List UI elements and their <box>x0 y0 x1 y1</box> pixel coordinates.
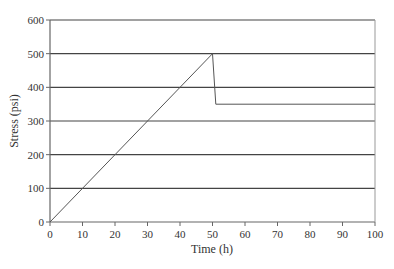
x-tick-label: 10 <box>77 228 89 240</box>
x-tick-label: 80 <box>305 228 317 240</box>
x-tick-label: 20 <box>110 228 122 240</box>
data-series <box>50 54 375 222</box>
x-axis-ticks: 0102030405060708090100 <box>47 222 384 240</box>
stress-line <box>50 54 375 222</box>
y-tick-label: 500 <box>28 48 45 60</box>
y-axis-label: Stress (psi) <box>7 94 21 148</box>
y-tick-label: 400 <box>28 81 45 93</box>
y-tick-label: 600 <box>28 14 45 26</box>
x-tick-label: 60 <box>240 228 252 240</box>
y-tick-label: 100 <box>28 182 45 194</box>
y-tick-label: 0 <box>39 216 45 228</box>
x-tick-label: 100 <box>367 228 384 240</box>
x-tick-label: 30 <box>142 228 154 240</box>
y-axis-ticks: 0100200300400500600 <box>28 14 51 228</box>
y-tick-label: 300 <box>28 115 45 127</box>
x-axis-label: Time (h) <box>191 242 233 256</box>
x-tick-label: 0 <box>47 228 53 240</box>
x-tick-label: 40 <box>175 228 187 240</box>
x-tick-label: 90 <box>337 228 349 240</box>
x-tick-label: 70 <box>272 228 284 240</box>
stress-time-chart: 0100200300400500600 01020304050607080901… <box>0 0 394 269</box>
y-tick-label: 200 <box>28 149 45 161</box>
x-tick-label: 50 <box>207 228 219 240</box>
